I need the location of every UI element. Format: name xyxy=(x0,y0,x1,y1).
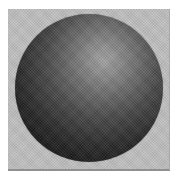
page-background xyxy=(0,0,179,181)
gray-panel xyxy=(8,9,170,171)
shaded-sphere xyxy=(15,14,163,162)
